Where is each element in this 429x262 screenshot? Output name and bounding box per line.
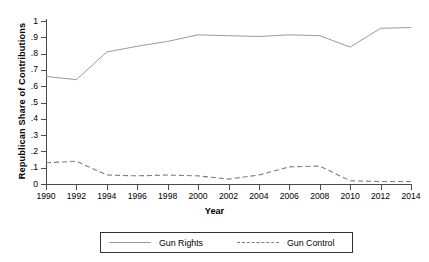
legend-item-gun-rights: Gun Rights [109, 233, 203, 252]
series-line-gun-rights [46, 28, 411, 80]
legend-label: Gun Rights [159, 238, 203, 248]
x-axis-title: Year [0, 206, 429, 216]
legend-item-gun-control: Gun Control [237, 233, 334, 252]
series-line-gun-control [46, 161, 411, 181]
chart-legend: Gun Rights Gun Control [100, 232, 353, 253]
chart-series-group [0, 0, 429, 262]
legend-swatch-dashed-line-icon [237, 238, 279, 247]
legend-label: Gun Control [287, 238, 334, 248]
chart-figure: Republican Share of Contributions 0.1.2.… [0, 0, 429, 262]
legend-swatch-solid-line-icon [109, 238, 151, 247]
